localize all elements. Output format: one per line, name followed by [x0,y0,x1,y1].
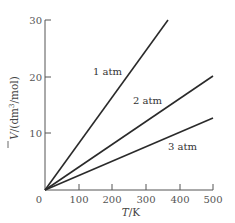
x-axis-title: T/K [122,206,141,218]
chart: 30 20 10 0 100 200 300 400 500 1 atm 2 a… [0,0,235,223]
y-axis-title-unit: /(dm [8,108,20,132]
series-label-3atm: 3 atm [168,141,198,152]
svg-text:V/(dm3/mol): V/(dm3/mol) [8,76,20,140]
series-label-2atm: 2 atm [133,95,163,106]
series-line-2atm [45,76,213,190]
y-axis-title: V/(dm3/mol) [8,76,20,148]
x-axis-title-unit: /K [129,206,141,218]
x-tick-label-300: 300 [136,194,155,205]
y-tick-label-30: 30 [29,15,42,26]
y-tick-label-10: 10 [29,128,42,139]
x-tick-label-100: 100 [69,194,88,205]
y-tick-label-20: 20 [29,72,42,83]
x-tick-label-500: 500 [203,194,222,205]
x-tick-label-400: 400 [170,194,189,205]
y-axis-title-tail: /mol) [8,76,20,103]
x-tick-label-0: 0 [36,194,42,205]
x-tick-label-200: 200 [102,194,121,205]
series-label-1atm: 1 atm [93,66,123,77]
